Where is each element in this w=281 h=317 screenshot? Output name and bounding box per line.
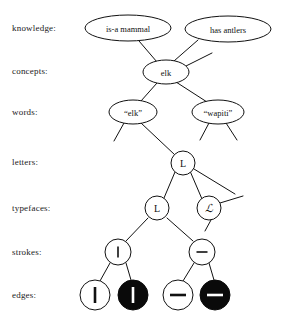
node-typeface-L-script[interactable]: ℒ [197,196,221,220]
link-stroke-horizontal-to-edge-horizontal-light [183,263,194,281]
link-letter-L-to-typeface-L-roman [164,172,175,198]
link-typeface-L-roman-to-stroke-vertical [126,218,148,241]
node-edge-vertical-dark[interactable] [118,280,148,310]
link-elk-concept-to-elk-word [141,83,157,101]
node-label-elk-concept: elk [161,68,172,78]
node-label-elk-word: “elk” [124,108,142,118]
link-elk-word-to-letter-L [141,123,175,155]
node-edge-horizontal-dark[interactable] [200,280,230,310]
link-typeface-L-script-to-dangling-down [205,220,211,231]
node-stroke-horizontal[interactable] [189,239,215,265]
node-label-letter-L: L [180,158,186,169]
node-elk-concept[interactable]: elk [143,60,189,84]
link-elk-concept-to-dangling-upper-right [186,53,212,66]
link-elk-concept-to-has-antlers [174,40,198,61]
row-label-strokes: strokes: [12,247,42,257]
node-label-wapiti-word: “wapiti” [204,108,233,118]
row-label-knowledge: knowledge: [12,23,56,33]
link-letter-L-to-typeface-L-script [190,171,202,199]
representation-hierarchy-diagram: is-a mammalhas antlerselk“elk”“wapiti”LL… [0,0,281,317]
link-letter-L-to-dangling-right [194,169,235,194]
link-wapiti-word-to-dangling-lower-right [226,123,237,140]
link-elk-word-to-dangling-lower-left [114,123,124,141]
node-typeface-L-roman[interactable]: L [145,196,169,220]
row-label-concepts: concepts: [12,66,48,76]
node-stroke-vertical[interactable] [105,239,131,265]
node-letter-L[interactable]: L [171,151,195,175]
row-label-edges: edges: [12,290,36,300]
link-stroke-vertical-to-edge-vertical-light [100,263,110,281]
link-elk-concept-to-wapiti-word [176,82,207,102]
link-wapiti-word-to-dangling-lower-left-2 [200,123,209,140]
diagram-page: is-a mammalhas antlerselk“elk”“wapiti”LL… [0,0,281,317]
link-typeface-L-script-to-dangling-right-2 [220,196,243,203]
row-label-letters: letters: [12,157,38,167]
link-typeface-L-roman-to-stroke-horizontal [167,218,193,241]
row-label-layer: knowledge:concepts:words:letters:typefac… [12,23,56,300]
node-edge-vertical-light[interactable] [80,280,110,310]
node-edge-horizontal-light[interactable] [163,280,193,310]
node-label-typeface-L-roman: L [154,203,160,214]
row-label-words: words: [12,107,38,117]
node-elk-word[interactable]: “elk” [109,100,157,124]
row-label-typefaces: typefaces: [12,203,50,213]
link-stroke-horizontal-to-edge-horizontal-dark [209,263,214,280]
node-label-has-antlers: has antlers [210,25,246,35]
link-elk-concept-to-is-a-mammal [139,41,157,62]
node-has-antlers[interactable]: has antlers [185,16,271,42]
node-wapiti-word[interactable]: “wapiti” [192,100,244,124]
node-label-is-a-mammal: is-a mammal [106,24,151,34]
link-stroke-vertical-to-edge-vertical-dark [126,263,131,280]
node-label-typeface-L-script: ℒ [205,202,214,215]
node-is-a-mammal[interactable]: is-a mammal [85,15,171,41]
